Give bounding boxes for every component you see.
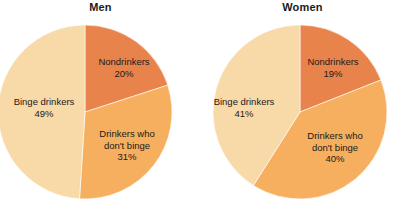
chart-panel-men: Men Nondrinkers 20% Drinkers who don't b… (0, 0, 201, 209)
pie-men-svg (0, 0, 201, 209)
chart-panel-women: Women Nondrinkers 19% Drinkers who don't… (202, 0, 403, 209)
pie-slice (0, 25, 85, 199)
pie-women: Nondrinkers 19% Drinkers who don't binge… (202, 0, 403, 209)
pie-men: Nondrinkers 20% Drinkers who don't binge… (0, 0, 201, 209)
pie-chart-figure: Men Nondrinkers 20% Drinkers who don't b… (0, 0, 403, 209)
pie-women-svg (202, 0, 403, 209)
